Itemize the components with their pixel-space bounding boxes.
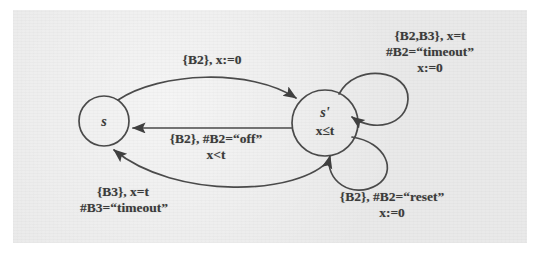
edge-label-off-line2: x<t (136, 147, 296, 163)
edge-sprime-self-reset (329, 137, 387, 190)
edge-label-self-reset-line2: x:=0 (302, 205, 482, 221)
state-invariant-s-prime: x≤t (299, 123, 351, 138)
state-label-s: s (92, 114, 116, 129)
edge-label-b3-timeout-line2: #B3=“timeout” (44, 200, 204, 216)
edge-sprime-self-timeout (339, 73, 408, 125)
edge-label-self-timeout-line2: #B2=“timeout” (350, 44, 510, 60)
edge-label-self-timeout-line1: {B2,B3}, x=t (350, 28, 510, 44)
edge-label-b3-timeout-line1: {B3}, x=t (48, 184, 198, 200)
edge-label-self-reset-line1: {B2}, #B2=“reset” (302, 189, 482, 205)
edge-label-s-to-sprime: {B2}, x:=0 (152, 52, 272, 68)
edge-s-to-sprime (118, 77, 296, 100)
edge-label-off-line1: {B2}, #B2=“off” (136, 131, 296, 147)
state-label-s-prime: s' (305, 105, 345, 120)
figure-canvas: s s' x≤t {B2}, x:=0 {B2}, #B2=“off” x<t … (0, 0, 540, 258)
edge-label-self-timeout-line3: x:=0 (350, 60, 510, 76)
